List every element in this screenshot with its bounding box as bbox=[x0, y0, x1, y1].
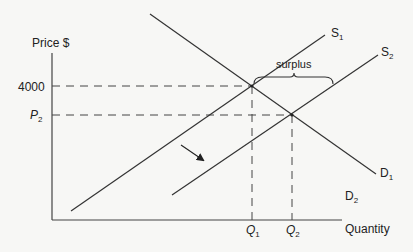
x-axis-label: Quantity bbox=[345, 223, 390, 235]
surplus-label: surplus bbox=[276, 59, 311, 70]
shift-arrow-icon bbox=[181, 145, 203, 160]
supply-curve-s2 bbox=[172, 55, 378, 195]
equilibrium-point-2 bbox=[290, 113, 293, 116]
quantity-tick-q2: Q2 bbox=[286, 224, 300, 239]
supply-demand-diagram: Price $ Quantity 4000 P2 Q1 Q2 S1 S2 D1 … bbox=[0, 0, 413, 252]
label-d2: D2 bbox=[345, 190, 358, 205]
y-axis-label: Price $ bbox=[32, 37, 69, 49]
price-tick-p2: P2 bbox=[30, 109, 42, 124]
label-s2: S2 bbox=[381, 46, 393, 61]
equilibrium-point-1 bbox=[250, 84, 253, 87]
label-d1: D1 bbox=[380, 167, 393, 182]
surplus-brace bbox=[254, 73, 333, 84]
quantity-tick-q1: Q1 bbox=[246, 224, 260, 239]
label-s1: S1 bbox=[331, 27, 343, 42]
axes bbox=[52, 53, 342, 220]
price-tick-4000: 4000 bbox=[18, 81, 45, 93]
